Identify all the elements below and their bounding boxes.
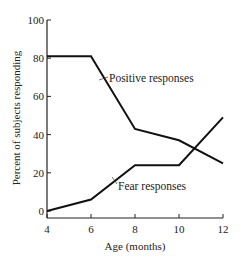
fear-series-label: Fear responses [118,180,187,193]
x-tick-label: 4 [44,223,50,235]
fear-responses-line [47,117,223,211]
x-tick-label: 10 [174,223,186,235]
y-tick-label: 60 [33,90,45,102]
y-tick-label: 100 [28,14,45,26]
y-tick-label: 40 [33,129,45,141]
x-tick-label: 12 [218,223,229,235]
y-tick-label: 20 [33,167,45,179]
y-tick-label: 80 [33,52,45,64]
x-tick-label: 8 [132,223,138,235]
line-chart: 020406080100 4681012 Percent of subjects… [0,0,241,266]
positive-series-label: Positive responses [109,72,194,85]
x-axis: 4681012 [44,214,228,235]
y-axis: 020406080100 [28,14,52,218]
y-axis-label: Percent of subjects responding [10,50,22,185]
x-axis-label: Age (months) [105,240,166,253]
y-tick-label: 0 [39,205,45,217]
x-tick-label: 6 [88,223,94,235]
